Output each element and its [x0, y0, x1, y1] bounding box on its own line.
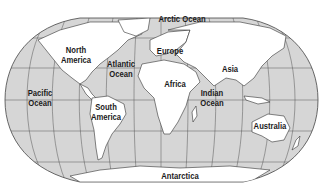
label-antarctica: Antarctica	[159, 171, 202, 181]
label-arctic-ocean: Arctic Ocean	[157, 14, 208, 24]
label-south-america-line1: South	[89, 102, 123, 112]
label-europe: Europe	[153, 46, 187, 56]
label-africa: Africa	[161, 79, 190, 89]
label-south-america: SouthAmerica	[89, 102, 123, 122]
label-pacific-ocean-line2: Ocean	[23, 98, 57, 108]
label-indian-ocean-line2: Ocean	[195, 98, 229, 108]
label-north-america-line2: America	[59, 55, 93, 65]
label-atlantic-ocean: AtlanticOcean	[104, 59, 138, 79]
label-south-america-line2: America	[89, 112, 123, 122]
label-pacific-ocean: PacificOcean	[23, 88, 57, 108]
label-north-america: NorthAmerica	[59, 45, 93, 65]
label-australia: Australia	[249, 121, 292, 131]
label-atlantic-ocean-line1: Atlantic	[104, 59, 138, 69]
label-indian-ocean-line1: Indian	[195, 88, 229, 98]
label-indian-ocean: IndianOcean	[195, 88, 229, 108]
label-atlantic-ocean-line2: Ocean	[104, 69, 138, 79]
label-north-america-line1: North	[59, 45, 93, 55]
label-pacific-ocean-line1: Pacific	[23, 88, 57, 98]
label-asia: Asia	[217, 64, 243, 74]
